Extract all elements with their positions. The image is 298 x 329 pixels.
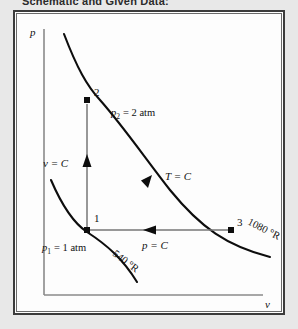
process-label-t-const: T = C bbox=[165, 170, 192, 182]
annotation-temp-540: 540 °R bbox=[111, 248, 141, 275]
figure-frame: p v v = C p = C T = C 2 1 3 p2= 2 atm p1… bbox=[13, 10, 285, 315]
y-axis-label: p bbox=[29, 26, 36, 38]
annotation-p1-subscript: 1 bbox=[47, 247, 51, 256]
state-label-3: 3 bbox=[237, 216, 243, 228]
annotation-p1: p1= 1 atm bbox=[41, 242, 86, 256]
annotation-temp-1080: 1080 °R bbox=[246, 216, 282, 242]
arrow-left-icon bbox=[143, 226, 156, 235]
process-label-v-const: v = C bbox=[43, 157, 69, 169]
figure-caption: Schematic and Given Data: bbox=[22, 0, 169, 5]
state-label-2: 2 bbox=[94, 86, 100, 98]
state-label-1: 1 bbox=[94, 212, 100, 224]
annotation-p2-subscript: 2 bbox=[116, 112, 120, 121]
x-axis-label: v bbox=[265, 298, 270, 310]
arrow-up-icon bbox=[83, 154, 92, 167]
annotation-p1-value: = 1 atm bbox=[54, 242, 86, 253]
annotation-p2: p2= 2 atm bbox=[110, 107, 155, 121]
pv-diagram: p v v = C p = C T = C 2 1 3 p2= 2 atm p1… bbox=[15, 12, 283, 313]
state-point-3 bbox=[228, 227, 234, 233]
state-point-1 bbox=[84, 227, 90, 233]
process-label-p-const: p = C bbox=[141, 239, 168, 251]
annotation-p2-value: = 2 atm bbox=[123, 107, 155, 118]
arrow-down-right-icon bbox=[141, 175, 152, 188]
state-point-2 bbox=[84, 97, 90, 103]
isotherm-540-curve bbox=[51, 180, 137, 282]
